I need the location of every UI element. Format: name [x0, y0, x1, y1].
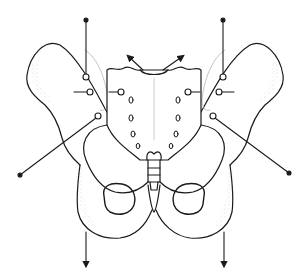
pelvis-diagram — [0, 0, 308, 278]
right-ilium — [201, 43, 283, 165]
pelvis-drawing — [0, 0, 308, 278]
pointer-dot-icon — [84, 18, 88, 22]
pointer-dot-icon — [287, 171, 291, 175]
sacrum — [107, 67, 201, 190]
pointer-dot-icon — [18, 173, 22, 177]
pointer-dot-icon — [221, 18, 225, 22]
left-ilium — [27, 43, 108, 165]
